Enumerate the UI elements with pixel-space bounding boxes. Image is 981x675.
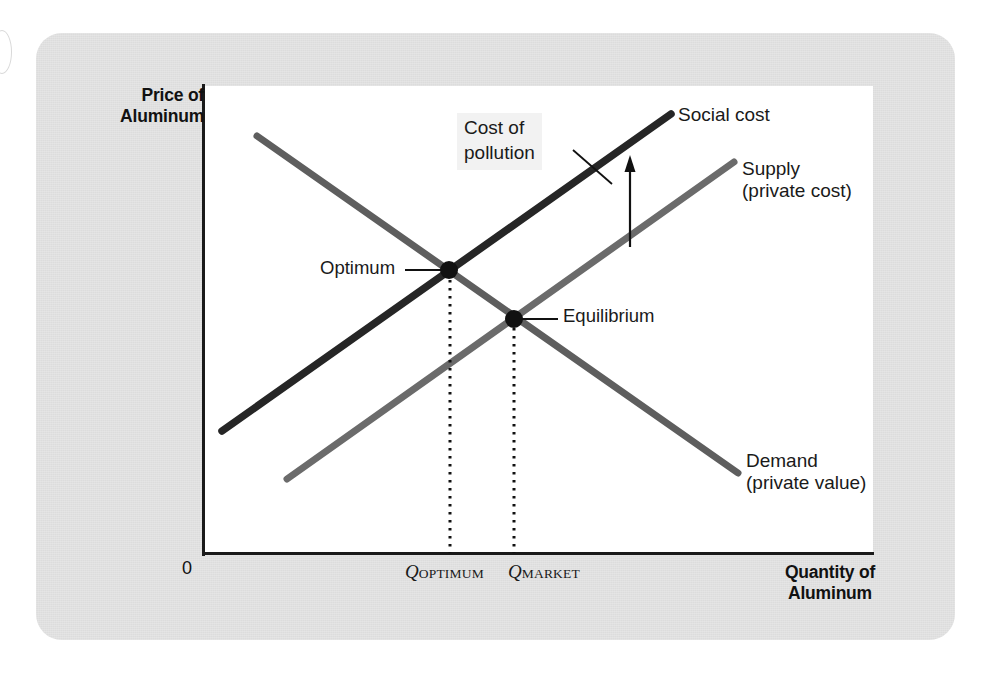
x-tick-optimum: QOPTIMUM [405,561,484,583]
scan-edge-mark [0,30,12,74]
supply-label-subtext: (private cost) [742,180,852,201]
cost-of-pollution-line1: Cost of [464,117,524,138]
social-cost-label: Social cost [678,104,770,126]
social-cost-label-text: Social cost [678,104,770,125]
x-axis-title-line1: Quantity of [785,562,875,582]
x-axis [202,552,874,555]
demand-label-subtext: (private value) [746,472,866,493]
x-tick-market: QMARKET [508,561,580,583]
cost-of-pollution-line2: pollution [464,142,535,163]
y-axis-title-line1: Price of [141,85,204,105]
x-axis-title-line2: Aluminum [788,583,872,603]
equilibrium-label: Equilibrium [563,305,655,327]
demand-label: Demand (private value) [746,450,866,495]
supply-label: Supply (private cost) [742,158,852,203]
origin-label: 0 [182,558,192,579]
demand-label-text: Demand [746,450,818,471]
optimum-label: Optimum [320,257,395,279]
x-axis-title: Quantity of Aluminum [770,562,890,603]
x-tick-optimum-subscript: OPTIMUM [419,566,484,581]
x-tick-market-subscript: MARKET [522,566,580,581]
x-tick-optimum-symbol: Q [405,561,419,582]
figure-canvas: Price of Aluminum Quantity of Aluminum 0… [0,0,981,675]
y-axis-title-line2: Aluminum [120,106,204,126]
y-axis-title: Price of Aluminum [112,85,204,126]
y-axis [202,84,205,556]
x-tick-market-symbol: Q [508,561,522,582]
cost-of-pollution-callout: Cost of pollution [457,113,542,170]
supply-label-text: Supply [742,158,800,179]
